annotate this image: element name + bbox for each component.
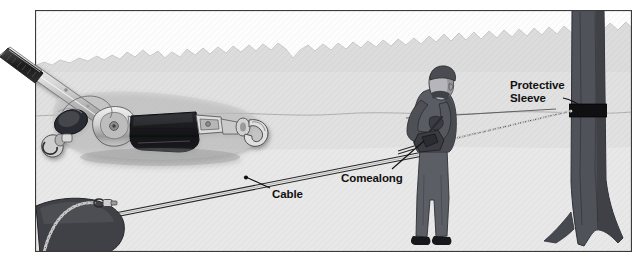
load-object — [36, 198, 124, 254]
label-protective-sleeve-line2: Sleeve — [510, 92, 565, 105]
scene-group — [0, 10, 632, 254]
label-protective-sleeve-line1: Protective — [510, 79, 565, 92]
illustration-canvas — [0, 0, 641, 261]
person-ear — [449, 84, 453, 90]
protective-sleeve-band — [569, 104, 607, 117]
label-protective-sleeve: Protective Sleeve — [510, 79, 565, 104]
person-shoe-left — [411, 236, 430, 245]
label-comealong: Comealong — [341, 172, 403, 185]
illustration-stage: Protective Sleeve Comealong Cable — [0, 0, 641, 261]
leader-cable-dot — [244, 175, 248, 179]
comealong-body-photo — [130, 112, 199, 152]
person-shoe-right — [432, 236, 451, 245]
label-cable: Cable — [272, 188, 303, 201]
